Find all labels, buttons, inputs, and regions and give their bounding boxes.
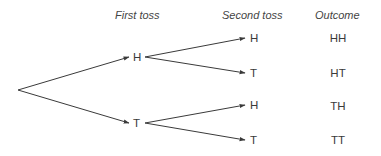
node-second-ht: T	[250, 67, 257, 79]
branch-h-to-t	[145, 57, 245, 73]
node-second-hh: H	[250, 32, 258, 44]
branch-root-to-h	[18, 57, 129, 90]
outcome-th: TH	[318, 100, 358, 112]
tree-diagram: First toss Second toss Outcome H T H T H…	[0, 0, 381, 156]
branch-t-to-t	[145, 123, 245, 140]
node-second-th: H	[250, 99, 258, 111]
node-second-tt: T	[250, 134, 257, 146]
header-outcome: Outcome	[315, 9, 360, 21]
header-first-toss: First toss	[115, 9, 160, 21]
outcome-ht: HT	[318, 67, 358, 79]
outcome-hh: HH	[318, 32, 358, 44]
header-second-toss: Second toss	[222, 9, 283, 21]
branch-root-to-t	[18, 90, 129, 123]
node-first-t: T	[133, 117, 140, 129]
node-first-h: H	[133, 51, 141, 63]
branch-t-to-h	[145, 105, 245, 123]
branch-h-to-h	[145, 38, 245, 57]
outcome-tt: TT	[318, 134, 358, 146]
